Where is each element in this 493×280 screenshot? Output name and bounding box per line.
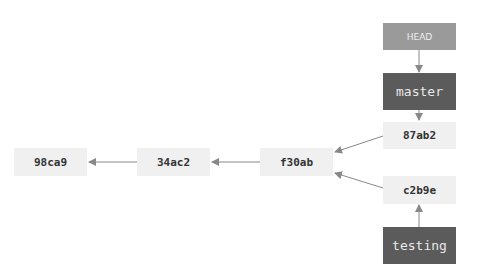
- head-label: HEAD: [407, 32, 433, 42]
- commit-node-87ab2: 87ab2: [383, 122, 456, 149]
- branch-master: master: [383, 73, 456, 110]
- edge-87ab2-f30ab: [335, 136, 383, 152]
- commit-hash: f30ab: [280, 156, 313, 169]
- head-pointer: HEAD: [383, 23, 456, 50]
- commit-node-f30ab: f30ab: [260, 148, 333, 176]
- branch-label: master: [396, 84, 443, 99]
- commit-node-34ac2: 34ac2: [137, 148, 210, 176]
- commit-node-c2b9e: c2b9e: [383, 176, 456, 204]
- commit-hash: 98ca9: [34, 156, 67, 169]
- commit-hash: 87ab2: [403, 129, 436, 142]
- commit-hash: c2b9e: [403, 184, 436, 197]
- edge-c2b9e-f30ab: [335, 173, 383, 188]
- commit-node-98ca9: 98ca9: [14, 148, 87, 176]
- commit-hash: 34ac2: [157, 156, 190, 169]
- branch-testing: testing: [383, 227, 456, 264]
- branch-label: testing: [392, 238, 447, 253]
